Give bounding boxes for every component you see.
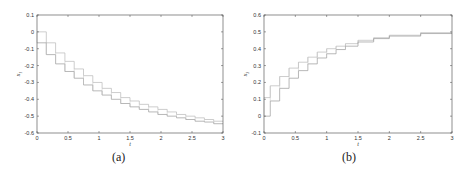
x-tick-label: 2.5 [417,135,425,141]
y-axis-label: x1 [15,72,23,78]
x-tick-label: 2 [388,135,391,141]
y-tick-label: 0.4 [253,46,261,52]
plot-b: 00.511.522.530.60.50.40.30.20.10-0.1tx3 [236,0,471,150]
y-tick-label: 0.1 [253,96,261,102]
x-tick-label: 0 [262,135,265,141]
y-tick-label: -0.4 [25,96,34,102]
x-tick-label: 0.5 [292,135,300,141]
y-tick-label: 0 [31,29,34,35]
x-tick-label: 1 [97,135,100,141]
x-axis-label: t [357,141,359,147]
y-tick-label: -0.2 [25,63,34,69]
y-tick-label: -0.1 [252,130,261,136]
caption-b: (b) [342,150,356,165]
y-tick-label: 0.2 [253,79,261,85]
y-tick-label: -0.6 [25,130,34,136]
x-tick-label: 0.5 [64,135,72,141]
y-tick-label: 0.3 [253,63,261,69]
x-tick-label: 2.5 [188,135,196,141]
series-lower [264,34,452,117]
x-tick-label: 0 [35,135,38,141]
y-tick-label: -0.1 [25,46,34,52]
chart-panel-a: 00.511.522.530.10-0.1-0.2-0.3-0.4-0.5-0.… [0,0,235,174]
series-upper [37,32,223,121]
x-tick-label: 2 [159,135,162,141]
y-tick-label: 0.5 [253,29,261,35]
x-tick-label: 3 [221,135,224,141]
y-axis-label: x3 [242,72,250,78]
x-tick-label: 1 [325,135,328,141]
y-tick-label: 0.1 [26,12,34,18]
x-axis-label: t [129,141,131,147]
axes-frame [37,15,223,133]
y-tick-label: -0.5 [25,113,34,119]
chart-panel-b: 00.511.522.530.60.50.40.30.20.10-0.1tx3 … [236,0,471,174]
y-tick-label: 0.6 [253,12,261,18]
y-tick-label: -0.3 [25,79,34,85]
caption-a: (a) [112,150,125,165]
y-tick-label: 0 [258,113,261,119]
plot-a: 00.511.522.530.10-0.1-0.2-0.3-0.4-0.5-0.… [0,0,235,150]
x-tick-label: 3 [450,135,453,141]
